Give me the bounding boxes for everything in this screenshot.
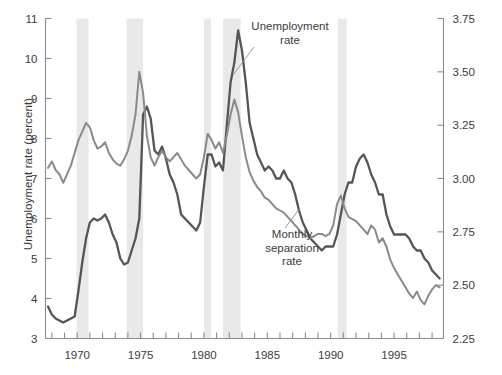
- recession-band: [338, 19, 347, 339]
- y-axis-right-tick-label: 3.25: [453, 119, 475, 131]
- x-axis-tick-label: 1985: [255, 349, 281, 361]
- y-axis-right-tick-label: 3.00: [453, 173, 475, 185]
- x-axis-tick-label: 1980: [191, 349, 217, 361]
- unemployment-label-line2: rate: [280, 34, 300, 46]
- x-axis-tick-label: 1995: [381, 349, 407, 361]
- series-group: [48, 31, 440, 323]
- x-axis-tick-label: 1970: [64, 349, 90, 361]
- x-axis-tick-label: 1975: [128, 349, 154, 361]
- x-axis-tick-label: 1990: [318, 349, 344, 361]
- y-axis-left-tick-label: 4: [31, 293, 38, 305]
- unemployment-label-line1: Unemployment: [251, 20, 328, 32]
- y-axis-right-tick-label: 2.25: [453, 333, 475, 345]
- separation-label-line3: rate: [282, 255, 302, 267]
- y-axis-right-tick-label: 2.75: [453, 226, 475, 238]
- y-axis-right-tick-label: 3.75: [453, 13, 475, 25]
- y-axis-right-tick-label: 2.50: [453, 279, 475, 291]
- unemployment-vs-separation-rate-chart: 345678910112.252.502.753.003.253.503.751…: [0, 0, 502, 375]
- recession-bands-group: [77, 19, 347, 339]
- separation-rate-annotation: Monthly separation rate: [250, 228, 334, 269]
- y-axis-left-tick-label: 10: [25, 53, 38, 65]
- separation-label-line2: separation: [265, 242, 319, 254]
- y-axis-left-tick-label: 11: [26, 13, 38, 25]
- y-axis-left-tick-label: 3: [31, 333, 37, 345]
- separation-rate-line: [48, 72, 440, 305]
- recession-band: [223, 19, 241, 339]
- separation-label-line1: Monthly: [272, 228, 312, 240]
- unemployment-rate-annotation: Unemployment rate: [242, 20, 338, 47]
- y-axis-left-title: Unemployment rate (percent): [22, 74, 34, 274]
- unemployment-rate-line: [48, 31, 440, 323]
- tick-labels-group: 345678910112.252.502.753.003.253.503.751…: [25, 13, 475, 361]
- y-axis-right-tick-label: 3.50: [453, 66, 475, 78]
- chart-container: 345678910112.252.502.753.003.253.503.751…: [0, 0, 502, 375]
